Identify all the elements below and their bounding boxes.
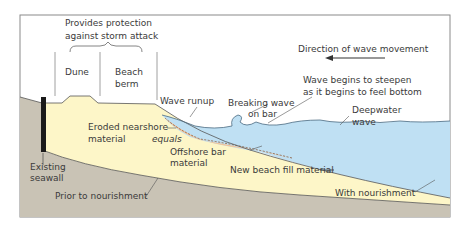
label-berm-1: Beach [115,67,143,77]
label-eroded-2: material [88,134,126,144]
label-steepen-2: as it begins to feel bottom [303,87,422,97]
label-offshore-1: Offshore bar [170,147,226,157]
label-protection-1: Provides protection [65,18,152,28]
label-equals: equals [152,134,182,144]
label-steepen-1: Wave begins to steepen [303,75,411,85]
label-berm-2: berm [115,79,139,89]
label-new-fill: New beach fill material [230,165,334,175]
label-protection-2: against storm attack [65,31,159,41]
label-dune: Dune [65,67,89,77]
label-with: With nourishment [335,188,416,198]
label-deepwater-2: wave [352,117,376,127]
label-wave-runup: Wave runup [160,96,214,106]
beach-nourishment-diagram: Provides protection against storm attack… [0,0,460,226]
seawall [41,97,46,152]
label-eroded-1: Eroded nearshore [88,122,168,132]
label-direction: Direction of wave movement [298,44,429,54]
label-breaking-1: Breaking wave [228,98,295,108]
label-seawall-2: seawall [30,173,64,183]
label-breaking-2: on bar [248,109,277,119]
label-prior: Prior to nourishment [55,191,148,201]
label-offshore-2: material [170,158,208,168]
label-deepwater-1: Deepwater [352,105,402,115]
label-seawall-1: Existing [30,162,66,172]
